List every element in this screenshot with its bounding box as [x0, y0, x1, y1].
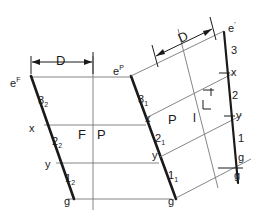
point-label-left-y: y — [45, 159, 51, 170]
segment-label-middle-1: 11 — [168, 170, 178, 183]
segment-label-left-3: 32 — [38, 95, 48, 108]
segment-label-left-1: 12 — [65, 173, 75, 186]
endpoint-label-right-bottom: g — [238, 152, 244, 163]
segment-label-middle-3: 31 — [138, 94, 148, 107]
dim-right-arrow-end — [203, 29, 212, 36]
point-label-middle-y: y — [152, 150, 158, 161]
field-label-l: l — [193, 111, 196, 124]
endpoint-label-left-bottom: g — [64, 196, 70, 207]
gamma-mark-strokes — [203, 88, 214, 109]
segment-label-right-2: 2 — [232, 90, 238, 101]
dim-left-arrow-start — [32, 59, 40, 65]
segment-label-right-3: 3 — [231, 45, 237, 56]
endpoint-label-middle-bottom: g — [168, 196, 174, 207]
endpoint-label-left-top: eF — [10, 76, 20, 89]
field-label-P-left: P — [97, 128, 106, 141]
geometry-diagram: D D eF 32 x 22 y 12 g F P eP 31 x 21 y 1… — [0, 0, 257, 221]
dimension-label-left: D — [56, 54, 65, 67]
field-label-F: F — [78, 128, 86, 141]
point-label-right-y: y — [236, 110, 242, 121]
dim-left-arrow-end — [84, 59, 92, 65]
point-label-middle-x: x — [145, 113, 151, 124]
field-label-P-right: P — [168, 113, 177, 126]
bottom-right-g-label: g — [234, 170, 240, 181]
dim-right-arrow-start — [156, 49, 165, 56]
endpoint-label-middle-top: eP — [113, 64, 124, 77]
segment-label-middle-2: 21 — [155, 133, 165, 146]
segment-label-right-1: 1 — [238, 133, 244, 144]
o-line-upper — [146, 73, 234, 118]
diagram-canvas — [0, 0, 257, 221]
endpoint-label-right-top: e' — [228, 21, 235, 34]
segment-label-left-2: 22 — [52, 136, 62, 149]
point-label-right-x: x — [231, 67, 237, 78]
p-l-divider — [178, 29, 218, 188]
point-label-left-x: x — [29, 123, 35, 134]
